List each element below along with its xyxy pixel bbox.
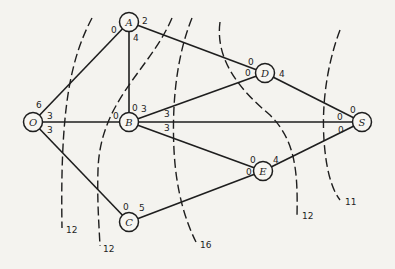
node-label: C [125,217,133,228]
edge-D-S [265,73,362,122]
node-label: A [124,17,132,28]
arc-capacity-label: 5 [139,203,145,213]
arc-capacity-label: 0 [111,25,117,35]
cut-curve [98,18,172,246]
arc-capacity-label: 0 [250,155,256,165]
cut-curve [219,22,297,216]
arc-capacity-label: 0 [113,111,119,121]
arc-capacity-label: 4 [273,155,279,165]
arc-capacity-label: 0 [123,202,129,212]
arc-capacity-label: 0 [350,105,356,115]
edge-O-C [33,122,129,222]
node-label: B [124,117,132,128]
node-E: E [254,162,273,181]
node-O: O [24,113,43,132]
cut-curve [173,18,196,242]
node-label: S [359,117,366,128]
arc-capacity-label: 0 [337,112,343,122]
arc-capacity-label: 0 [338,125,344,135]
node-label: D [260,68,269,79]
cut-capacity-label: 16 [200,240,212,250]
edges-layer [33,22,362,222]
node-S: S [353,113,372,132]
capacity-labels-layer: 6330240303305004004000 [36,16,356,213]
node-label: O [29,117,37,128]
arc-capacity-label: 0 [246,167,252,177]
node-C: C [120,213,139,232]
arc-capacity-label: 4 [133,33,139,43]
arc-capacity-label: 0 [248,57,254,67]
arc-capacity-label: 3 [141,104,147,114]
node-label: E [258,166,267,177]
node-B: B [120,113,139,132]
edge-B-D [129,73,265,122]
arc-capacity-label: 3 [164,123,170,133]
node-D: D [256,64,275,83]
arc-capacity-label: 2 [142,16,148,26]
arc-capacity-label: 3 [47,125,53,135]
cut-capacity-label: 11 [345,197,356,207]
node-A: A [120,13,139,32]
arc-capacity-label: 0 [245,68,251,78]
edge-A-D [129,22,265,73]
cuts-layer: 1212161211 [62,18,357,254]
edge-B-E [129,122,263,171]
cut-capacity-label: 12 [302,211,313,221]
arc-capacity-label: 3 [47,111,53,121]
edge-C-E [129,171,263,222]
arc-capacity-label: 4 [279,69,285,79]
arc-capacity-label: 0 [132,103,138,113]
network-diagram: 1212161211 OABCDES 633024030330500400400… [0,0,395,269]
graph-svg: 1212161211 OABCDES 633024030330500400400… [0,0,395,269]
arc-capacity-label: 3 [164,109,170,119]
cut-curve [62,18,92,228]
arc-capacity-label: 6 [36,100,42,110]
cut-capacity-label: 12 [66,225,77,235]
cut-capacity-label: 12 [103,244,114,254]
